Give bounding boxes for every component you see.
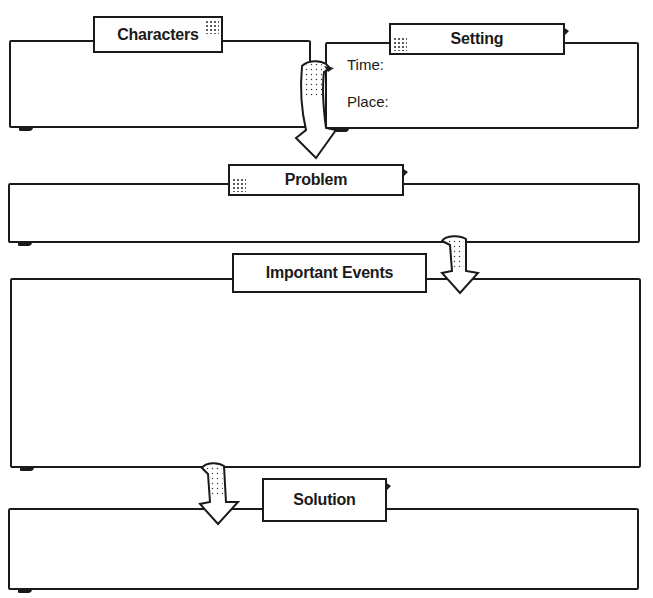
problem-label-text: Problem xyxy=(285,171,348,189)
characters-label: Characters xyxy=(93,16,223,53)
curl-shadow xyxy=(18,589,32,593)
curl-shadow xyxy=(19,127,33,131)
place-field-label: Place: xyxy=(347,93,389,110)
problem-label: Problem xyxy=(228,164,404,196)
dot-texture xyxy=(393,37,407,51)
flick-mark xyxy=(402,168,408,178)
flick-mark xyxy=(563,27,569,37)
arrow-down-icon xyxy=(438,235,482,297)
setting-label-text: Setting xyxy=(451,30,504,48)
solution-label: Solution xyxy=(262,478,387,522)
arrow-down-icon xyxy=(290,58,350,163)
important-events-label-text: Important Events xyxy=(266,264,394,282)
time-field-label: Time: xyxy=(347,56,384,73)
characters-box[interactable] xyxy=(9,40,311,128)
flick-mark xyxy=(385,482,391,492)
curl-shadow xyxy=(20,467,34,471)
setting-label: Setting xyxy=(389,23,565,55)
dot-texture xyxy=(205,20,219,34)
curl-shadow xyxy=(18,242,32,246)
dot-texture xyxy=(232,178,246,192)
solution-label-text: Solution xyxy=(293,491,355,509)
important-events-box[interactable] xyxy=(10,278,641,468)
characters-label-text: Characters xyxy=(117,26,199,44)
arrow-down-icon xyxy=(196,462,242,528)
important-events-label: Important Events xyxy=(232,253,427,293)
